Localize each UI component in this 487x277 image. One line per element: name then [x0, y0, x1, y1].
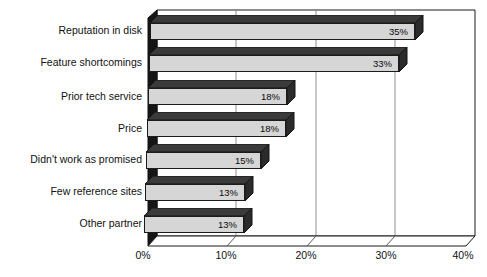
bar: 18%	[147, 120, 286, 138]
bar: 15%	[146, 152, 261, 170]
bar: 18%	[148, 88, 287, 106]
axis-tick-label: 10%	[202, 249, 250, 261]
bar-face: 18%	[148, 88, 287, 105]
bar-value-label: 18%	[261, 91, 280, 103]
bar-top-face	[144, 208, 252, 216]
bar: 35%	[150, 23, 415, 41]
bar-value-label: 18%	[260, 123, 279, 135]
bar-value-label: 35%	[389, 26, 408, 38]
bar-face: 18%	[147, 120, 286, 137]
bar-chart: Reputation in disk Feature shortcomings …	[0, 0, 487, 277]
axis-tick-label: 40%	[439, 249, 487, 261]
bar-face: 33%	[149, 55, 399, 72]
axis-tick-label: 20%	[282, 249, 330, 261]
bar-face: 13%	[144, 216, 244, 233]
bar-top-face	[146, 144, 269, 152]
bar-value-label: 33%	[373, 58, 392, 70]
bar-face: 15%	[146, 152, 261, 169]
bar: 13%	[145, 184, 245, 202]
bar-top-face	[147, 112, 294, 120]
bar-top-face	[150, 15, 423, 23]
axis-tick-label: 30%	[362, 249, 410, 261]
bar-face: 35%	[150, 23, 415, 40]
bar-top-face	[149, 47, 407, 55]
bar-top-face	[145, 176, 253, 184]
axis-tick-label: 0%	[119, 249, 167, 261]
bars-layer: 35% 33% 18%	[0, 0, 487, 277]
bar: 13%	[144, 216, 244, 234]
bar-value-label: 15%	[235, 155, 254, 167]
bar-value-label: 13%	[219, 187, 238, 199]
bar-value-label: 13%	[218, 219, 237, 231]
bar-face: 13%	[145, 184, 245, 201]
bar-top-face	[148, 80, 295, 88]
bar: 33%	[149, 55, 399, 73]
